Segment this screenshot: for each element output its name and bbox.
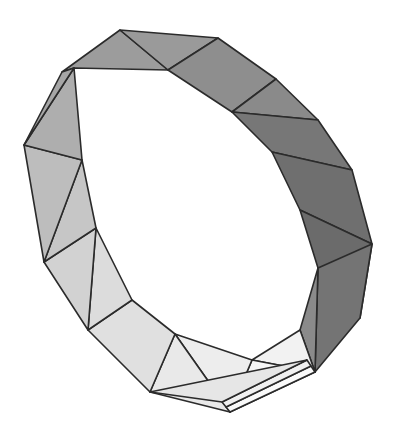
polygonal-band-figure: Shaded 3D polygonal annulus (Mobius-like… bbox=[0, 0, 406, 444]
